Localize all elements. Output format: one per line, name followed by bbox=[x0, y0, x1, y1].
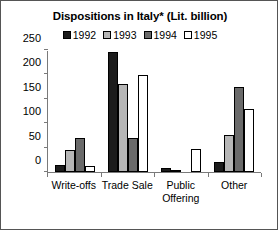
chart-title: Dispositions in Italy* (Lit. billion) bbox=[1, 10, 278, 22]
y-tick-label-150: 150 bbox=[23, 81, 41, 93]
x-axis-label: Other bbox=[208, 179, 262, 205]
bar-1994-trade-sale bbox=[128, 138, 138, 172]
legend-item-1992: 1992 bbox=[63, 30, 96, 41]
y-tick-250 bbox=[44, 49, 48, 50]
x-tick bbox=[47, 173, 48, 177]
x-axis-label: Write-offs bbox=[47, 179, 101, 205]
bar-1992-write-offs bbox=[55, 165, 65, 172]
x-tick bbox=[208, 173, 209, 177]
y-tick-label-200: 200 bbox=[23, 56, 41, 68]
x-tick bbox=[154, 173, 155, 177]
bar-group bbox=[48, 51, 101, 172]
x-axis-ticks bbox=[47, 173, 261, 178]
bar-group bbox=[208, 51, 261, 172]
legend-label-1993: 1993 bbox=[113, 30, 136, 41]
bar-1993-trade-sale bbox=[118, 84, 128, 172]
y-tick-label-100: 100 bbox=[23, 105, 41, 117]
x-axis-label-line: Public bbox=[154, 179, 208, 192]
bar-1993-public-offering bbox=[171, 170, 181, 172]
bar-groups bbox=[48, 51, 261, 172]
bar-1992-other bbox=[214, 162, 224, 172]
bar-1993-write-offs bbox=[65, 150, 75, 172]
plot-area: 050100150200250 bbox=[47, 51, 261, 173]
legend-label-1994: 1994 bbox=[154, 30, 177, 41]
x-tick bbox=[101, 173, 102, 177]
legend-item-1993: 1993 bbox=[103, 30, 136, 41]
y-tick-label-0: 0 bbox=[35, 154, 41, 166]
legend-item-1995: 1995 bbox=[184, 30, 217, 41]
bar-group bbox=[101, 51, 154, 172]
bar-1993-other bbox=[224, 135, 234, 172]
x-axis-label-line: Offering bbox=[154, 192, 208, 205]
bar-group bbox=[155, 51, 208, 172]
legend-item-1994: 1994 bbox=[144, 30, 177, 41]
bar-1995-other bbox=[244, 109, 254, 172]
chart-figure: Dispositions in Italy* (Lit. billion) 19… bbox=[0, 0, 278, 230]
y-tick-label-250: 250 bbox=[23, 32, 41, 44]
bar-1994-other bbox=[234, 87, 244, 172]
legend-swatch-1995 bbox=[184, 31, 192, 39]
x-tick bbox=[261, 173, 262, 177]
x-axis-label-line: Other bbox=[208, 179, 262, 192]
x-axis-label-line: Write-offs bbox=[47, 179, 101, 192]
bar-1992-trade-sale bbox=[108, 52, 118, 172]
x-axis-label-line: Trade Sale bbox=[101, 179, 155, 192]
x-axis-label: Trade Sale bbox=[101, 179, 155, 205]
bar-1995-trade-sale bbox=[138, 75, 148, 172]
bar-1992-public-offering bbox=[161, 168, 171, 172]
bar-1994-write-offs bbox=[75, 138, 85, 172]
legend-swatch-1994 bbox=[144, 31, 152, 39]
x-axis-labels: Write-offsTrade SalePublicOfferingOther bbox=[47, 179, 261, 205]
bar-1995-write-offs bbox=[85, 166, 95, 172]
chart-legend: 1992 1993 1994 1995 bbox=[1, 30, 278, 41]
legend-label-1995: 1995 bbox=[194, 30, 217, 41]
legend-swatch-1993 bbox=[103, 31, 111, 39]
x-axis-label: PublicOffering bbox=[154, 179, 208, 205]
legend-label-1992: 1992 bbox=[73, 30, 96, 41]
y-tick-label-50: 50 bbox=[29, 130, 41, 142]
legend-swatch-1992 bbox=[63, 31, 71, 39]
bar-1995-public-offering bbox=[191, 149, 201, 172]
